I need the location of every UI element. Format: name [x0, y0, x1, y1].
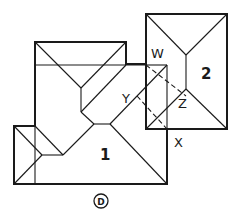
point-x-label: X — [174, 135, 183, 150]
point-z-label: Z — [178, 96, 187, 111]
section-2-label: 2 — [201, 65, 211, 83]
section-1-label: 1 — [100, 146, 110, 164]
roof-plan-diagram: 1 2 W X Y Z D — [0, 0, 238, 219]
point-y-label: Y — [121, 91, 130, 106]
section-2-hips-ridges — [146, 14, 227, 129]
figure-label-text: D — [97, 197, 104, 207]
section-1-outline — [14, 42, 167, 184]
figure-label: D — [94, 194, 108, 208]
point-w-label: W — [151, 46, 164, 61]
